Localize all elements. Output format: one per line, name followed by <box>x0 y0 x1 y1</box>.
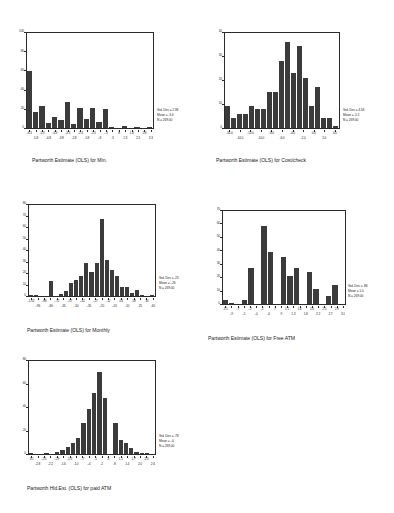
chart-caption-paid-atm: Partworth Hld.Est. (OLS) for paid ATM <box>27 485 111 491</box>
chart-caption-monthly: Partworth Estimate (OLS) for Monthly <box>27 327 110 333</box>
y-tick-label: 10 <box>14 283 26 286</box>
x-tick-label: .5 <box>107 458 109 461</box>
x-tick-label: 2.0 <box>310 308 314 311</box>
plot-baseline-free-atm <box>222 304 346 305</box>
x-tick-label: 0.0 <box>312 132 316 135</box>
x-tick-mark <box>225 306 226 308</box>
x-tick-mark <box>303 130 304 132</box>
y-tick-label: 30 <box>210 54 222 57</box>
y-tick-label: 70 <box>208 208 220 211</box>
histogram-bars-min <box>27 32 154 128</box>
x-tick-label: -2.5 <box>42 458 47 461</box>
x-tick-label: -.72 <box>54 300 59 303</box>
x-tick-mark <box>293 130 294 132</box>
y-tick-mark <box>26 227 28 228</box>
x-tick-label: -1.8 <box>84 137 89 140</box>
x-tick-label: -.65 <box>61 305 66 308</box>
x-tick-label: -5.3 <box>40 132 45 135</box>
x-tick-mark <box>335 130 336 132</box>
x-tick-label: 4.0 <box>333 132 337 135</box>
x-tick-mark <box>331 306 332 308</box>
x-tick-mark <box>134 298 135 300</box>
x-tick-label: 3.1 <box>341 313 345 316</box>
x-tick-mark <box>282 130 283 132</box>
x-tick-mark <box>121 456 122 458</box>
x-tick-mark <box>127 456 128 458</box>
x-tick-label: 2.9 <box>335 308 339 311</box>
x-tick-label: 2.3 <box>136 137 140 140</box>
y-tick-mark <box>220 291 222 292</box>
x-tick-label: -5.8 <box>33 137 38 140</box>
x-tick-mark <box>31 298 32 300</box>
x-tick-label: -1.9 <box>54 458 59 461</box>
x-tick-label: -.8 <box>98 137 101 140</box>
x-tick-label: -.88 <box>42 300 47 303</box>
x-tick-mark <box>95 456 96 458</box>
x-tick-mark <box>262 306 263 308</box>
x-tick-mark <box>61 130 62 132</box>
x-tick-label: -.9 <box>230 313 233 316</box>
stats-box-paid-atm: Std. Dev = .78 Mean = -.0 N = 269.00 <box>159 434 179 450</box>
x-tick-mark <box>244 306 245 308</box>
x-tick-mark <box>146 298 147 300</box>
y-tick-label: 60 <box>14 382 26 385</box>
stats-box-cost-check: Std. Dev = 4.58 Mean = -5.1 N = 269.00 <box>343 108 364 124</box>
x-tick-mark <box>63 298 64 300</box>
y-tick-label: 20 <box>208 275 220 278</box>
x-tick-mark <box>300 306 301 308</box>
x-tick-mark <box>151 130 152 132</box>
x-tick-label: -8.0 <box>269 132 274 135</box>
histogram-bar <box>333 126 339 128</box>
histogram-bars-monthly <box>29 204 156 296</box>
x-tick-label: -4.0 <box>290 132 295 135</box>
x-tick-mark <box>93 130 94 132</box>
x-tick-mark <box>281 306 282 308</box>
y-tick-label: 40 <box>12 88 24 91</box>
y-tick-mark <box>220 237 222 238</box>
histogram-bar <box>294 268 300 304</box>
x-tick-mark <box>48 130 49 132</box>
x-tick-label: -.42 <box>80 300 85 303</box>
x-tick-label: -.0 <box>254 313 257 316</box>
x-tick-mark <box>63 456 64 458</box>
x-tick-label: -3.8 <box>59 137 64 140</box>
x-tick-label: -.20 <box>99 305 104 308</box>
x-tick-label: .8 <box>118 132 120 135</box>
chart-panel-free-atm: 010203040506070 -1.5-.7-.2.2.71.11.62.02… <box>200 202 394 348</box>
y-tick-mark <box>222 56 224 57</box>
y-tick-mark <box>24 51 26 52</box>
y-tick-label: 80 <box>12 50 24 53</box>
x-tick-mark <box>231 306 232 308</box>
y-tick-label: 20 <box>210 78 222 81</box>
chart-caption-cost-check: Partworth Estimate (OLS) for Cost/check <box>216 157 306 163</box>
x-tick-label: 1.3 <box>123 137 127 140</box>
histogram-bar <box>109 127 115 128</box>
histogram-bar <box>147 127 153 128</box>
x-tick-label: -3.1 <box>29 458 34 461</box>
x-tick-mark <box>144 130 145 132</box>
histogram-bar <box>44 453 49 454</box>
histogram-bar <box>34 295 39 296</box>
x-tick-label: .03 <box>119 300 123 303</box>
y-tick-label: 20 <box>14 429 26 432</box>
y-tick-mark <box>26 407 28 408</box>
x-tick-label: -.12 <box>106 300 111 303</box>
x-tick-mark <box>70 298 71 300</box>
y-tick-mark <box>26 239 28 240</box>
chart-panel-monthly: 01020304050607080 -1.02-.88-.72-.57-.42-… <box>0 196 200 342</box>
y-tick-mark <box>220 250 222 251</box>
x-tick-mark <box>324 130 325 132</box>
y-tick-label: 60 <box>208 222 220 225</box>
x-tick-label: -.05 <box>112 305 117 308</box>
x-tick-mark <box>112 130 113 132</box>
x-tick-mark <box>38 298 39 300</box>
x-tick-label: .7 <box>274 308 276 311</box>
x-tick-mark <box>31 456 32 458</box>
y-tick-label: 30 <box>14 260 26 263</box>
x-tick-mark <box>271 130 272 132</box>
x-tick-mark <box>76 456 77 458</box>
x-tick-label: .33 <box>144 300 148 303</box>
histogram-bar <box>229 303 235 304</box>
x-tick-mark <box>38 456 39 458</box>
y-tick-mark <box>220 304 222 305</box>
